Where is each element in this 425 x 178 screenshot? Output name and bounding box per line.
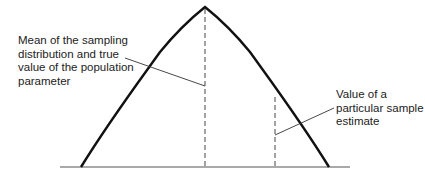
sampling-distribution-diagram: Mean of the sampling distribution and tr… [0,0,425,178]
mean-label: Mean of the sampling distribution and tr… [18,34,134,88]
sample-estimate-label: Value of a particular sample estimate [336,88,424,129]
mean-leader-line [125,58,205,86]
